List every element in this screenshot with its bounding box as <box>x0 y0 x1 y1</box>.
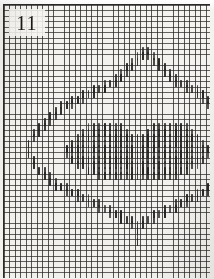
stitch-mark <box>38 129 40 137</box>
stitch-mark <box>158 210 160 218</box>
stitch-mark <box>147 52 149 60</box>
stitch-mark <box>197 194 199 202</box>
stitch-mark <box>55 183 57 191</box>
stitch-mark <box>207 189 209 197</box>
stitch-mark <box>180 199 182 207</box>
stitch-mark <box>207 150 209 158</box>
stitch-mark <box>147 216 149 224</box>
stitch-mark <box>175 205 177 213</box>
stitch-mark <box>71 156 73 164</box>
stitch-mark <box>55 112 57 120</box>
stitch-mark <box>66 101 68 109</box>
stitch-mark <box>191 194 193 202</box>
chart-number-label: 11 <box>16 13 37 33</box>
stitch-mark <box>104 85 106 93</box>
stitch-mark <box>115 172 117 180</box>
stitch-mark <box>88 90 90 98</box>
stitch-mark <box>120 74 122 82</box>
stitch-mark <box>186 199 188 207</box>
stitch-mark <box>202 96 204 104</box>
stitch-mark <box>158 63 160 71</box>
stitch-mark <box>109 80 111 88</box>
stitch-mark <box>169 172 171 180</box>
stitch-mark <box>77 96 79 104</box>
stitch-mark <box>49 118 51 126</box>
stitch-mark <box>191 85 193 93</box>
stitch-mark <box>142 172 144 180</box>
stitch-mark <box>33 161 35 169</box>
stitch-mark <box>137 238 139 246</box>
stitch-mark <box>77 161 79 169</box>
stitch-mark <box>66 189 68 197</box>
stitch-mark <box>44 172 46 180</box>
stitch-mark <box>180 80 182 88</box>
stitch-mark <box>137 172 139 180</box>
stitch-mark <box>202 156 204 164</box>
stitch-mark <box>88 167 90 175</box>
stitch-mark <box>197 90 199 98</box>
stitch-mark <box>60 107 62 115</box>
chart-page: 11 Chart 11 <box>0 0 214 279</box>
stitch-mark <box>120 172 122 180</box>
stitch-mark <box>98 172 100 180</box>
stitch-mark <box>82 161 84 169</box>
stitch-mark <box>71 101 73 109</box>
stitch-mark <box>109 172 111 180</box>
stitch-mark <box>126 172 128 180</box>
stitch-mark <box>186 167 188 175</box>
stitch-mark <box>137 58 139 66</box>
stitch-mark <box>71 189 73 197</box>
stitch-mark <box>197 161 199 169</box>
stitch-mark <box>93 90 95 98</box>
chart-number-badge: 11 <box>9 9 45 36</box>
stitch-mark <box>98 85 100 93</box>
stitch-mark <box>38 167 40 175</box>
stitch-mark <box>142 221 144 229</box>
stitch-mark <box>175 172 177 180</box>
stitch-mark <box>164 69 166 77</box>
stitch-mark <box>93 199 95 207</box>
stitch-mark <box>82 194 84 202</box>
stitch-mark <box>153 172 155 180</box>
stitch-layer <box>4 5 210 278</box>
stitch-mark <box>77 194 79 202</box>
stitch-mark <box>109 210 111 218</box>
stitch-mark <box>175 80 177 88</box>
stitch-mark <box>164 172 166 180</box>
stitch-mark <box>131 221 133 229</box>
stitch-mark <box>104 172 106 180</box>
stitch-mark <box>28 150 30 158</box>
stitch-mark <box>142 52 144 60</box>
stitch-mark <box>44 123 46 131</box>
stitch-mark <box>98 205 100 213</box>
stitch-mark <box>186 85 188 93</box>
stitch-mark <box>207 101 209 109</box>
stitch-mark <box>82 96 84 104</box>
stitch-mark <box>126 216 128 224</box>
stitch-mark <box>93 167 95 175</box>
stitch-mark <box>115 210 117 218</box>
stitch-mark <box>164 210 166 218</box>
stitch-mark <box>158 172 160 180</box>
stitch-mark <box>131 172 133 180</box>
stitch-mark <box>104 205 106 213</box>
stitch-mark <box>131 63 133 71</box>
stitch-mark <box>202 189 204 197</box>
stitch-mark <box>115 80 117 88</box>
stitch-mark <box>33 134 35 142</box>
stitch-mark <box>169 205 171 213</box>
stitch-mark <box>153 58 155 66</box>
stitch-mark <box>49 178 51 186</box>
stitch-mark <box>147 172 149 180</box>
stitch-mark <box>60 183 62 191</box>
stitch-mark <box>120 216 122 224</box>
stitch-mark <box>88 199 90 207</box>
stitch-mark <box>66 150 68 158</box>
stitch-mark <box>126 69 128 77</box>
stitch-mark <box>191 161 193 169</box>
stitch-mark <box>180 167 182 175</box>
stitch-mark <box>169 74 171 82</box>
chart-frame <box>3 4 210 278</box>
stitch-mark <box>153 216 155 224</box>
